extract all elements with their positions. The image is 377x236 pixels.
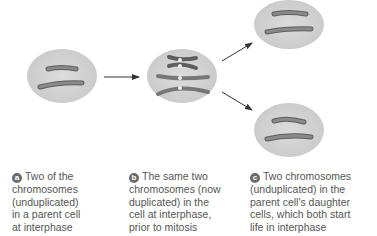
chromosomes-and-arrows (0, 0, 377, 170)
caption-c: cTwo chromosomes (unduplicated) in the p… (250, 170, 377, 233)
badge-a: a (12, 173, 22, 183)
arrow-b-to-top (222, 43, 252, 61)
badge-b: b (129, 173, 139, 183)
badge-c: c (250, 173, 260, 183)
arrow-b-to-bottom (222, 92, 252, 110)
caption-b: bThe same two chromosomes (now duplicate… (129, 170, 239, 233)
caption-a: aTwo of the chromosomes (unduplicated) i… (12, 170, 112, 233)
